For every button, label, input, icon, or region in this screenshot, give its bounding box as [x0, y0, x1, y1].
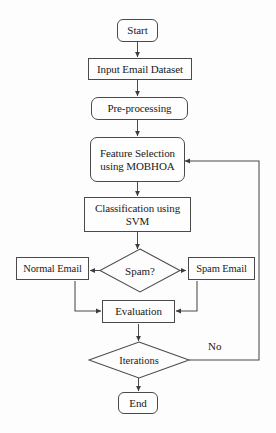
- node-start-label: Start: [127, 24, 147, 36]
- node-classification-svm[interactable]: Classification using SVM: [84, 197, 191, 232]
- node-evaluation-label: Evaluation: [115, 305, 162, 317]
- edge-label-no-text: No: [208, 340, 221, 352]
- node-spam-email[interactable]: Spam Email: [188, 257, 255, 280]
- node-normal-email-label: Normal Email: [23, 263, 82, 275]
- connector-normal-to-evaluation: [75, 281, 101, 311]
- iterations-decision-shape: [89, 342, 189, 378]
- node-pre-processing-label: Pre-processing: [108, 102, 172, 114]
- flowchart-diagram: Start Input Email Dataset Pre-processing…: [0, 0, 276, 433]
- node-feature-selection-label-line2: using MOBHOA: [100, 160, 174, 172]
- edge-label-no: No: [208, 340, 221, 352]
- node-classification-svm-label-line2: SVM: [126, 215, 150, 227]
- node-end[interactable]: End: [118, 392, 158, 414]
- node-start[interactable]: Start: [117, 19, 158, 42]
- node-classification-svm-label-line1: Classification using: [95, 202, 180, 214]
- node-input-email-dataset-label: Input Email Dataset: [97, 63, 183, 75]
- node-feature-selection-label-line1: Feature Selection: [100, 147, 175, 159]
- node-evaluation[interactable]: Evaluation: [102, 300, 175, 323]
- node-pre-processing[interactable]: Pre-processing: [91, 97, 188, 120]
- node-input-email-dataset[interactable]: Input Email Dataset: [88, 58, 192, 80]
- node-feature-selection[interactable]: Feature Selection using MOBHOA: [90, 137, 185, 182]
- node-spam-email-label: Spam Email: [196, 263, 247, 275]
- node-end-label: End: [129, 397, 146, 409]
- spam-decision-shape: [100, 249, 180, 292]
- connector-spamemail-to-evaluation: [176, 281, 197, 311]
- node-normal-email[interactable]: Normal Email: [16, 257, 89, 280]
